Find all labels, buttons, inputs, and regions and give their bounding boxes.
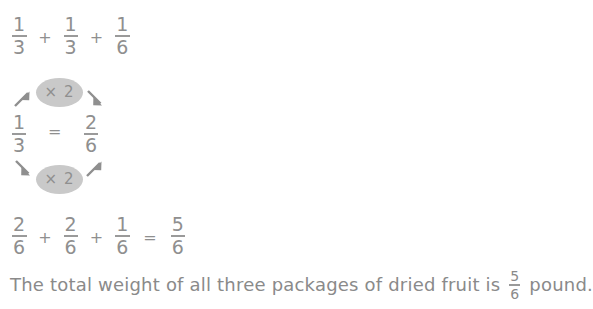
fraction-two-sixths-b: 2 6 [64,215,79,257]
equals-sign: = [136,228,164,247]
fraction-denominator: 6 [171,238,186,257]
fraction-two-sixths: 2 6 [84,113,98,155]
fraction-numerator: 1 [115,15,130,34]
diagram-equals-sign: = [48,122,61,141]
plus-operator: + [33,28,57,47]
fraction-numerator: 2 [64,215,79,234]
fraction-two-sixths-a: 2 6 [12,215,27,257]
fraction-numerator: 2 [12,215,27,234]
fraction-denominator: 3 [64,38,79,57]
diagram-fraction-right: 2 6 [84,114,98,156]
multiplier-badge-bottom: × 2 [36,165,83,194]
fraction-numerator: 1 [12,113,26,132]
fraction-denominator: 6 [115,238,130,257]
fraction-numerator: 2 [84,113,98,132]
fraction-denominator: 6 [84,136,98,155]
answer-sentence-text-after: pound. [529,274,593,295]
plus-operator: + [33,228,57,247]
arrow-down-right-icon [84,88,106,110]
fraction-five-sixths-inline: 5 6 [509,269,520,301]
fraction-numerator: 5 [509,269,520,283]
plus-operator: + [85,228,109,247]
fraction-one-sixth: 1 6 [115,15,130,57]
fraction-numerator: 1 [64,15,79,34]
fraction-numerator: 5 [171,215,186,234]
fraction-denominator: 6 [115,38,130,57]
arrow-up-right-icon [84,157,106,179]
fraction-denominator: 6 [12,238,27,257]
arrow-up-right-icon [12,87,34,109]
equation-top: 1 3 + 1 3 + 1 6 [12,16,130,58]
fraction-denominator: 6 [64,238,79,257]
fraction-denominator: 3 [12,38,27,57]
diagram-fraction-left: 1 3 [12,114,26,156]
fraction-one-third-b: 1 3 [64,15,79,57]
fraction-one-third: 1 3 [12,113,26,155]
fraction-numerator: 1 [12,15,27,34]
fraction-one-sixth: 1 6 [115,215,130,257]
fraction-denominator: 3 [12,136,26,155]
answer-sentence: The total weight of all three packages o… [10,270,593,302]
equation-bottom: 2 6 + 2 6 + 1 6 = 5 6 [12,216,185,258]
fraction-denominator: 6 [509,287,520,301]
fraction-numerator: 1 [115,215,130,234]
multiplier-badge-top: × 2 [36,78,83,107]
arrow-down-right-icon [12,158,34,180]
fraction-one-third-a: 1 3 [12,15,27,57]
conversion-diagram: × 2 × 2 1 3 = 2 [0,70,200,200]
fraction-five-sixths-result: 5 6 [171,215,186,257]
plus-operator: + [85,28,109,47]
answer-sentence-text-before: The total weight of all three packages o… [10,274,500,295]
